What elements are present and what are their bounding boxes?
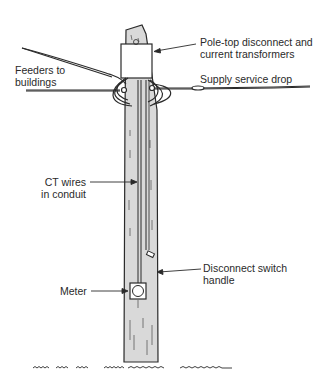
pole-top-disconnect-label: Pole-top disconnect and current transfor…: [200, 36, 313, 60]
ct-wires-label: CT wires in conduit: [38, 176, 86, 200]
feeders-label: Feeders to buildings: [15, 64, 65, 88]
supply-service-drop-label: Supply service drop: [200, 73, 292, 85]
meter: [130, 283, 146, 299]
disconnect-switch-handle-label: Disconnect switch handle: [203, 262, 287, 286]
pole-top-disconnect-box: [121, 40, 152, 79]
pole-diagram: Pole-top disconnect and current transfor…: [0, 0, 326, 384]
meter-label: Meter: [60, 285, 87, 297]
ground-line: [33, 367, 232, 369]
